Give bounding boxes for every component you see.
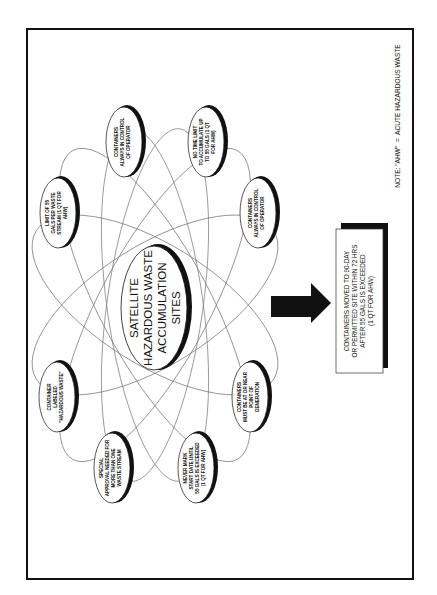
node-text-line: LABELED [53,385,58,407]
node-never-mark: NEVER MARK START DATE UNTIL 55 GALS IS E… [178,431,218,503]
node-limit-55: LIMIT OF 55 GALS PER WASTE STREAM (1 QT … [40,176,80,248]
node-text-line: APPROVAL NEEDED FOR [105,439,110,496]
node-text-line: NEVER MARK [183,452,188,484]
node-text-line: OF OPERATOR [126,125,131,159]
node-text-line: LIMIT OF 55 [45,200,50,226]
outcome-box: CONTAINERS MOVED TO 90-DAY OR PERMITTED … [336,223,388,373]
node-text-line: FOR AHW) [211,130,216,154]
node-text-line: AHW) [63,206,68,219]
center-node: SATELLITE HAZARDOUS WASTE ACCUMULATION S… [121,244,192,370]
node-text-line: CONTAINERS [237,382,242,412]
outcome-line: CONTAINERS MOVED TO 90-DAY [343,250,350,351]
node-containers-control-2: CONTAINERS ALWAYS IN CONTROL OF OPERATOR [240,176,280,248]
node-text-line: POINT OF [249,386,254,408]
node-text-line: ALWAYS IN CONTROL [254,188,259,237]
outcome-line: (1 QT FOR AHW) [367,276,375,326]
node-text-line: SPECIAL [99,458,104,478]
center-title-line-1: SATELLITE [128,278,140,338]
center-title-line-2: HAZARDOUS WASTE [142,250,154,366]
arrow-right-icon [271,283,331,323]
diagram-canvas: SATELLITE HAZARDOUS WASTE ACCUMULATION S… [0,0,437,595]
center-title-line-3: ACCUMULATION [156,262,168,353]
node-text-line: MUST BE AT OR NEAR [243,371,248,422]
node-text-line: GALS PER WASTE [51,192,56,233]
node-container-labeled: CONTAINER LABELED "HAZARDOUS WASTE" [39,360,79,432]
node-text-line: TO ACCUMULATE UP [199,118,204,165]
node-text-line: CONTAINERS [248,198,253,228]
node-text-line: ALWAYS IN CONTROL [120,117,125,166]
node-no-time-limit: NO TIME LIMIT TO ACCUMULATE UP TO 55 GAL… [188,105,228,177]
node-text-line: OF OPERATOR [260,196,265,230]
node-text-line: TO 55 GALS (1 QT [205,122,210,162]
node-text-line: WASTE STREAM [117,449,122,486]
node-containers-control-1: CONTAINERS ALWAYS IN CONTROL OF OPERATOR [106,105,146,177]
node-text-line: NO TIME LIMIT [193,126,198,159]
node-text-line: MORE THAN ONE [111,448,116,487]
center-title-line-4: SITES [170,291,182,325]
node-text-line: START DATE UNTIL [189,446,194,489]
node-text-line: 55 GALS IS EXCEEDED [195,442,200,494]
outcome-line: OR PERMITTED SITE WITHIN 72 HRS [351,245,358,358]
node-text-line: GENERATION [255,381,260,412]
note-text: NOTE: "AHW" = ACUTE HAZARDOUS WASTE [394,44,401,188]
node-text-line: CONTAINER [47,383,52,411]
node-special-approval: SPECIAL APPROVAL NEEDED FOR MORE THAN ON… [94,431,134,503]
node-text-line: STREAM (1 QT FOR [57,191,62,235]
node-text-line: "HAZARDOUS WASTE" [59,371,64,422]
node-text-line: (1 QT FOR AHW) [201,449,206,486]
outcome-line: AFTER 55 GALS IS EXCEEDED [359,254,366,348]
node-text-line: CONTAINERS [114,127,119,157]
node-containers-near: CONTAINERS MUST BE AT OR NEAR POINT OF G… [232,360,272,432]
